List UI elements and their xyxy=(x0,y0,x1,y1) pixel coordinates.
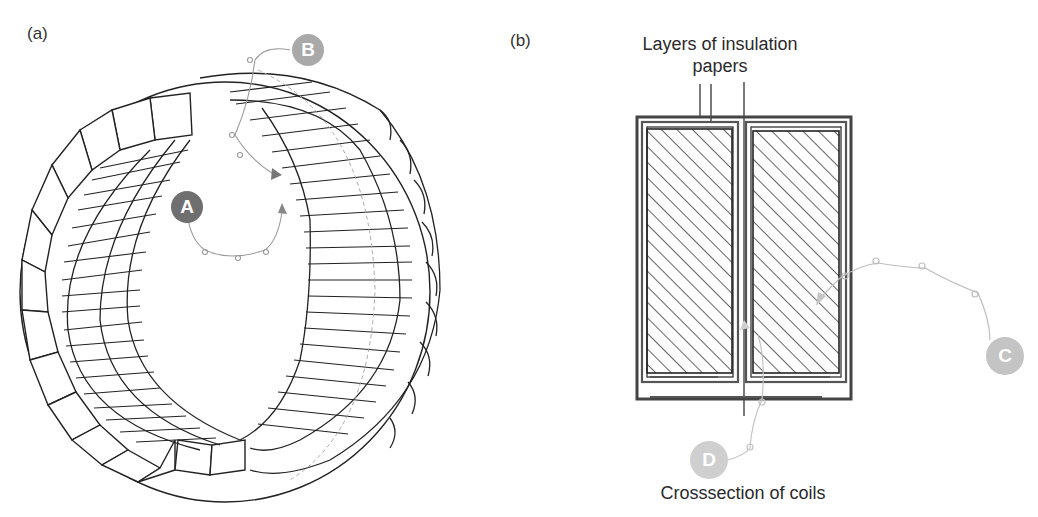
crosssection-caption: Crosssection of coils xyxy=(648,482,838,504)
callout-badge-a: A xyxy=(171,191,203,223)
callout-c-letter: C xyxy=(998,345,1012,366)
callout-a-letter: A xyxy=(180,196,194,217)
callout-badge-b: B xyxy=(292,34,324,66)
panel-a-stator-diagram: (a) xyxy=(0,0,500,517)
stator-ring-drawing xyxy=(0,0,500,517)
coil-crosssection-drawing xyxy=(500,0,1038,517)
callout-badge-d: D xyxy=(690,441,728,479)
callout-badge-c: C xyxy=(986,337,1024,375)
panel-b-coil-crosssection: (b) Layers of insulation papers xyxy=(500,0,1038,517)
callout-d-letter: D xyxy=(702,449,716,470)
callout-b-letter: B xyxy=(301,39,315,60)
